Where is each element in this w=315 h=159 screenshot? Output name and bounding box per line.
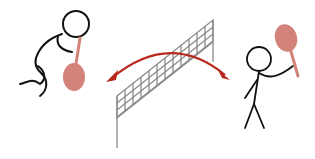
diagram-canvas: [0, 0, 315, 159]
net-icon: [117, 20, 213, 148]
left-racket-icon: [63, 38, 85, 91]
right-racket-icon: [272, 22, 300, 76]
badminton-diagram: [0, 0, 315, 159]
right-player-figure: [245, 47, 293, 128]
